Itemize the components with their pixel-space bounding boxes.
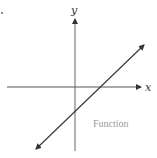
y-axis-label: y (70, 4, 78, 17)
x-axis-label: x (145, 81, 152, 94)
coordinate-plane-diagram: x y Function (0, 0, 157, 158)
stray-dot (1, 12, 3, 14)
function-caption: Function (93, 118, 129, 129)
function-line (36, 45, 144, 149)
